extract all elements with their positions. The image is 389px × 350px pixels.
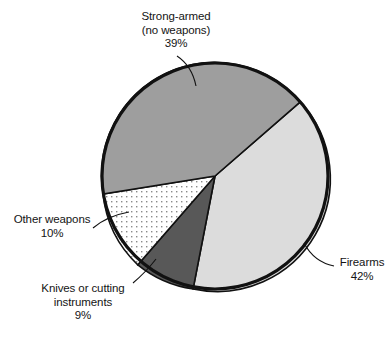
pie-label-firearms-line1: Firearms [336,256,388,270]
pie-label-other-weapons: Other weapons 10% [4,213,100,240]
pie-label-knives-line1: Knives or cutting [28,282,138,296]
pie-label-knives: Knives or cutting instruments 9% [28,282,138,323]
pie-label-strong-armed: Strong-armed (no weapons) 39% [114,10,238,51]
pie-label-other-weapons-line1: Other weapons [4,213,100,227]
pie-label-knives-line2: instruments [28,296,138,310]
pie-label-other-weapons-value: 10% [4,227,100,241]
pie-label-firearms-value: 42% [336,270,388,284]
pie-chart: Strong-armed (no weapons) 39% Firearms 4… [0,0,389,350]
pie-label-strong-armed-line1: Strong-armed [114,10,238,24]
pie-label-strong-armed-line2: (no weapons) [114,24,238,38]
pie-label-firearms: Firearms 42% [336,256,388,283]
pie-label-strong-armed-value: 39% [114,37,238,51]
pie-label-knives-value: 9% [28,309,138,323]
